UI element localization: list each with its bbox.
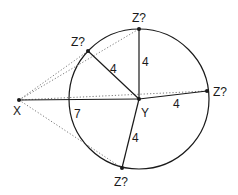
- diagram-canvas: X Y Z? Z? Z? Z? 7 4 4 4 4: [0, 0, 238, 195]
- label-z-right: Z?: [213, 85, 227, 99]
- label-x: X: [13, 104, 21, 118]
- point-y: [137, 97, 141, 101]
- point-z-top: [137, 27, 141, 31]
- length-x-y: 7: [74, 107, 81, 121]
- label-z-top: Z?: [132, 11, 146, 25]
- point-z-right: [205, 89, 209, 93]
- length-y-z-upper-left: 4: [110, 62, 117, 76]
- label-y: Y: [141, 106, 149, 120]
- length-y-z-right: 4: [173, 97, 180, 111]
- label-z-bottom: Z?: [114, 175, 128, 189]
- point-z-bottom: [120, 166, 124, 170]
- point-x: [17, 98, 21, 102]
- label-z-upper-left: Z?: [71, 35, 85, 49]
- dotted-x-to-z-upper-left: [19, 51, 88, 100]
- segment-x-y: [19, 99, 139, 100]
- point-z-upper-left: [86, 49, 90, 53]
- length-y-z-top: 4: [142, 55, 149, 69]
- length-y-z-bottom: 4: [132, 131, 139, 145]
